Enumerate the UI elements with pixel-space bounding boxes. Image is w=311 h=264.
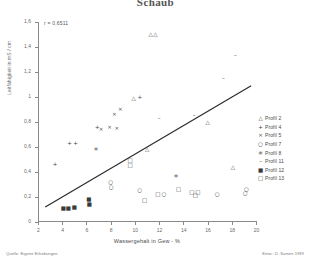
x-tick-label: 12 [157, 227, 163, 234]
data-point: + [67, 141, 72, 147]
x-tick-label: 18 [229, 227, 235, 234]
data-point: △ [231, 166, 235, 172]
y-tick-label: 0 [28, 218, 31, 225]
data-point: ○ [162, 192, 167, 198]
data-point: ○ [244, 187, 249, 193]
data-point: – [234, 54, 237, 60]
legend-item-profil-2[interactable]: △Profil 2 [256, 114, 308, 123]
square-open-icon: □ [256, 175, 265, 181]
legend-item-label: Profil 7 [265, 141, 281, 147]
data-point: + [137, 96, 142, 102]
y-tick: 1,2 [35, 72, 39, 73]
dash-icon: – [256, 158, 265, 164]
y-tick: 1,4 [35, 47, 39, 48]
x-tick: 6 [86, 221, 87, 225]
x-tick: 2 [38, 221, 39, 225]
x-axis-label: Wassergehalt in Gew - % [38, 238, 256, 244]
y-tick: 0,6 [35, 147, 39, 148]
x-tick-label: 14 [181, 227, 187, 234]
legend-item-label: Profil 11 [265, 158, 284, 164]
y-axis-label: Leitfähigkeit in mS / cm [6, 41, 12, 95]
x-tick-label: 10 [133, 227, 139, 234]
data-point: – [193, 114, 196, 120]
data-point: + [53, 162, 58, 168]
x-tick: 10 [135, 221, 136, 225]
data-point: × [99, 127, 104, 133]
data-point: × [114, 126, 119, 132]
data-point: × [118, 107, 123, 113]
x-tick: 18 [232, 221, 233, 225]
x-tick: 16 [208, 221, 209, 225]
x-tick-label: 2 [37, 227, 40, 234]
y-tick-label: 1 [28, 93, 31, 100]
y-tick: 1 [35, 97, 39, 98]
data-point: ■ [87, 202, 92, 208]
y-tick: 1,6 [35, 22, 39, 23]
triangle-up-open-icon: △ [256, 115, 265, 121]
x-tick-label: 16 [205, 227, 211, 234]
data-point: □ [193, 194, 198, 200]
square-filled-icon: ■ [256, 167, 265, 173]
legend-item-profil-11[interactable]: –Profil 11 [256, 157, 308, 166]
x-tick-label: 6 [86, 227, 89, 234]
trendline [38, 22, 256, 222]
data-point: △ [132, 96, 136, 102]
data-point: ■ [72, 206, 77, 212]
legend: △Profil 2+Profil 4×Profil 5○Profil 7✳Pro… [256, 114, 308, 183]
x-tick: 8 [111, 221, 112, 225]
y-tick-label: 0,2 [24, 193, 31, 200]
data-point: □ [127, 164, 132, 170]
y-tick-label: 0,8 [24, 118, 31, 125]
data-point: ○ [215, 192, 220, 198]
plus-icon: + [256, 124, 265, 130]
legend-item-label: Profil 12 [265, 167, 284, 173]
data-point: □ [176, 187, 181, 193]
data-point: □ [142, 199, 147, 205]
plot-area: 00,20,40,60,811,21,41,6 2468101214161820… [38, 22, 256, 222]
data-point: △ [149, 32, 153, 38]
legend-item-profil-8[interactable]: ✳Profil 8 [256, 148, 308, 157]
data-point: △ [205, 121, 209, 127]
data-point: ■ [66, 206, 71, 212]
circle-open-icon: ○ [256, 141, 265, 147]
legend-item-label: Profil 5 [265, 132, 281, 138]
x-tick: 20 [256, 221, 257, 225]
legend-item-profil-7[interactable]: ○Profil 7 [256, 140, 308, 149]
data-point: × [107, 125, 112, 131]
cross-x-icon: × [256, 132, 265, 138]
legend-item-profil-4[interactable]: +Profil 4 [256, 123, 308, 132]
author-note: Entw.: D. Samen 1989 [262, 251, 304, 256]
x-tick-label: 4 [61, 227, 64, 234]
legend-item-profil-12[interactable]: ■Profil 12 [256, 166, 308, 175]
data-point: – [222, 76, 225, 82]
data-point: × [112, 112, 117, 118]
y-tick-label: 1,6 [24, 18, 31, 25]
y-tick-label: 0,6 [24, 143, 31, 150]
data-point: ○ [137, 189, 142, 195]
data-point: △ [145, 147, 149, 153]
legend-item-label: Profil 13 [265, 175, 284, 181]
y-tick-label: 0,4 [24, 168, 31, 175]
x-axis [38, 221, 256, 222]
chart-page: Schaub r = 0,6511 Leitfähigkeit in mS / … [0, 0, 311, 264]
y-tick-label: 1,4 [24, 43, 31, 50]
data-point: △ [153, 32, 157, 38]
asterisk-icon: ✳ [256, 150, 265, 156]
data-point: ✳ [94, 147, 99, 153]
x-tick-label: 20 [254, 227, 260, 234]
legend-item-label: Profil 4 [265, 124, 281, 130]
y-tick: 0,2 [35, 197, 39, 198]
x-tick: 4 [62, 221, 63, 225]
x-tick: 14 [183, 221, 184, 225]
y-tick: 0,4 [35, 172, 39, 173]
legend-item-label: Profil 2 [265, 115, 281, 121]
x-tick-label: 8 [110, 227, 113, 234]
data-point: ✳ [174, 174, 179, 180]
y-tick-label: 1,2 [24, 68, 31, 75]
source-note: Quelle: Eigene Erhebungen [6, 251, 58, 256]
legend-item-profil-5[interactable]: ×Profil 5 [256, 131, 308, 140]
legend-item-profil-13[interactable]: □Profil 13 [256, 174, 308, 183]
page-title: Schaub [0, 0, 311, 6]
data-point: – [158, 116, 161, 122]
data-point: + [73, 141, 78, 147]
